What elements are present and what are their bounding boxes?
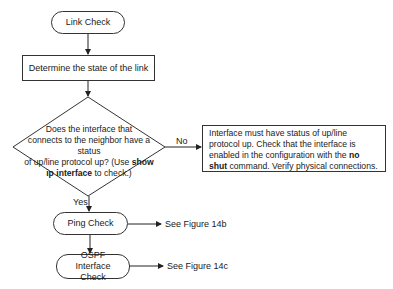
start-link-check: Link Check: [51, 11, 125, 34]
no-branch-note: Interface must have status of up/line pr…: [202, 125, 386, 172]
no-label: No: [176, 136, 188, 147]
ping-check: Ping Check: [53, 212, 128, 235]
start-label: Link Check: [66, 17, 111, 28]
determine-state-step: Determine the state of the link: [22, 55, 155, 81]
yes-label: Yes: [73, 197, 88, 208]
ping-label: Ping Check: [67, 218, 113, 229]
ospf-interface-check: OSPF Interface Check: [56, 254, 130, 279]
ospf-ref: See Figure 14c: [167, 261, 228, 272]
step-label: Determine the state of the link: [29, 63, 149, 74]
decision-text: Does the interface that connects to the …: [18, 124, 160, 179]
ospf-label: OSPF Interface Check: [65, 250, 121, 283]
ping-ref: See Figure 14b: [165, 219, 227, 230]
